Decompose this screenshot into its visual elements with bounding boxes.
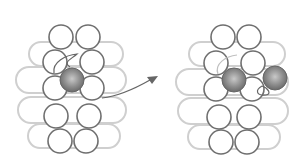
panel-after xyxy=(176,25,288,154)
beadwork-diagram xyxy=(0,0,307,164)
shaded-bead-new xyxy=(263,66,287,90)
shaded-bead xyxy=(60,68,84,92)
background-loops xyxy=(176,42,288,149)
shaded-bead xyxy=(222,68,246,92)
arrow-head-icon xyxy=(147,76,158,84)
panel-before xyxy=(16,25,158,153)
